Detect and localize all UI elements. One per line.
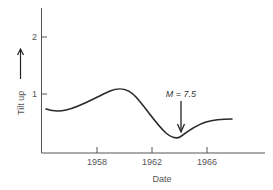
y-tick-label-2: 2	[32, 32, 37, 42]
x-tick-label-1962: 1962	[142, 157, 162, 167]
y-axis-label: Tilt up	[16, 91, 26, 115]
down-arrow-icon	[178, 101, 185, 132]
tilt-curve	[46, 89, 232, 138]
magnitude-annotation: M = 7.5	[166, 89, 197, 99]
y-tick-label-1: 1	[32, 89, 37, 99]
y-axis-arrow-icon	[18, 49, 24, 79]
x-axis-label: Date	[152, 174, 171, 184]
x-tick-label-1958: 1958	[87, 157, 107, 167]
x-tick-label-1966: 1966	[197, 157, 217, 167]
chart: 2 1 1958 1962 1966 Date Tilt up M = 7.5	[0, 0, 273, 190]
